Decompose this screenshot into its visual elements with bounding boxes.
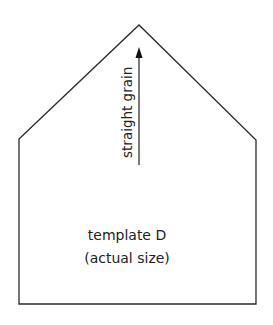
grain-arrow-head-icon [136,47,143,58]
template-subtitle: (actual size) [84,250,170,266]
template-title: template D [88,227,166,243]
grain-label: straight grain [119,67,135,158]
template-diagram: straight grain template D (actual size) [0,0,273,325]
